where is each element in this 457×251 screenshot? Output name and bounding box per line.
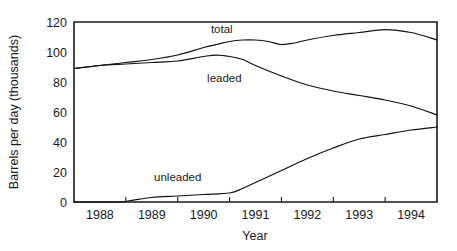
y-tick-label: 80 [53, 76, 67, 90]
series-label-total: total [211, 23, 233, 35]
chart-figure: 020406080100120 198819891990199119921993… [0, 0, 457, 251]
x-axis-tick-labels: 1988198919901991199219931994 [86, 208, 425, 222]
series-annotations: totalleadedunleaded [154, 23, 242, 184]
line-chart: 020406080100120 198819891990199119921993… [0, 0, 457, 251]
x-tick-label: 1992 [293, 208, 321, 222]
x-tick-label: 1993 [345, 208, 373, 222]
y-tick-label: 40 [53, 136, 67, 150]
x-tick-label: 1989 [138, 208, 166, 222]
series-lines [74, 30, 437, 203]
x-axis-title: Year [242, 229, 267, 243]
plot-axes-frame [74, 22, 437, 202]
x-tick-label: 1991 [242, 208, 270, 222]
series-label-leaded: leaded [207, 72, 242, 84]
x-tick-label: 1994 [397, 208, 425, 222]
y-tick-label: 0 [60, 196, 67, 210]
x-tick-label: 1990 [190, 208, 218, 222]
y-axis-title: Barrels per day (thousands) [7, 35, 21, 189]
series-line-unleaded [74, 127, 437, 202]
y-tick-label: 60 [53, 106, 67, 120]
y-tick-label: 120 [46, 16, 67, 30]
x-tick-label: 1988 [86, 208, 114, 222]
series-line-total [74, 30, 437, 69]
y-tick-label: 20 [53, 166, 67, 180]
y-tick-label: 100 [46, 46, 67, 60]
series-line-leaded [74, 55, 437, 115]
y-axis-tick-labels: 020406080100120 [46, 16, 67, 210]
series-label-unleaded: unleaded [154, 171, 201, 183]
